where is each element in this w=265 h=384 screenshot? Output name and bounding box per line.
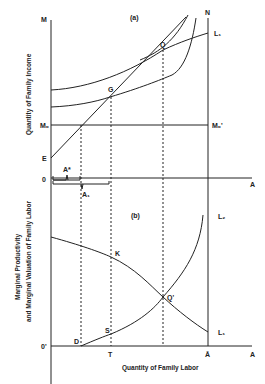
panel-a-y-axis-label: Quantity of Family Income xyxy=(25,53,33,135)
label-G: G xyxy=(108,86,114,93)
label-D: D xyxy=(74,338,79,345)
marginal-productivity-curve xyxy=(51,237,208,332)
label-A1: A₁ xyxy=(82,191,90,198)
label-E: E xyxy=(42,155,47,162)
label-L1-a: L₁ xyxy=(214,30,221,37)
panel-b-y-axis-label-line1: Marginal Productivity xyxy=(14,234,22,300)
label-M: M xyxy=(41,16,47,23)
label-A-b: A xyxy=(250,351,255,358)
panel-a-title: (a) xyxy=(130,14,139,22)
label-A-a: A xyxy=(250,181,255,188)
label-A-star: A* xyxy=(63,166,71,173)
panel-b-y-axis-label-line2: and Marginal Valuation of Family Labor xyxy=(25,201,33,322)
label-S: S xyxy=(105,327,110,334)
label-A-bar: Ā xyxy=(205,351,210,358)
label-M0: M₀ xyxy=(40,122,49,129)
label-M0-prime: M₀' xyxy=(212,122,223,129)
label-O: 0 xyxy=(42,176,46,183)
label-L2: L₂ xyxy=(218,213,225,220)
panel-b-x-axis-label: Quantity of Family Labor xyxy=(122,364,199,372)
label-K: K xyxy=(115,250,120,257)
label-O-prime: 0' xyxy=(41,343,47,350)
marginal-valuation-curve xyxy=(81,215,203,346)
label-N: N xyxy=(205,9,210,16)
label-L1-b: L₁ xyxy=(218,329,225,336)
label-Q-prime: Q' xyxy=(167,294,174,302)
indifference-curve-lower xyxy=(51,18,196,107)
panel-b-title: (b) xyxy=(131,212,140,220)
label-Q: Q xyxy=(160,41,166,49)
economics-diagram: M (a) N L₁ Q G M₀ M₀' E 0 A A* A₁ Quanti… xyxy=(0,0,265,384)
label-T: T xyxy=(108,351,113,358)
